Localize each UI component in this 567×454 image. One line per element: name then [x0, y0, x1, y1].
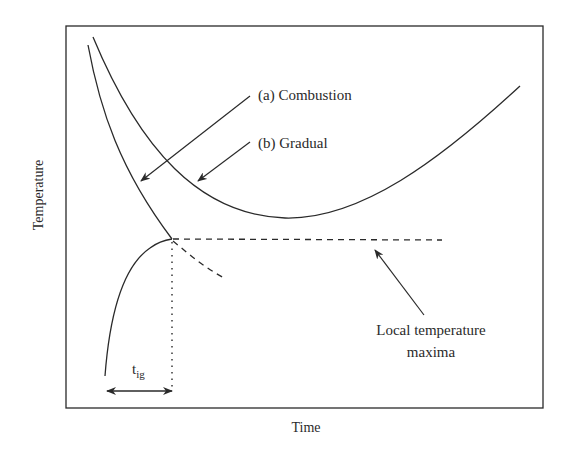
arrow-local-maxima-icon: [375, 250, 424, 315]
label-combustion: (a) Combustion: [258, 87, 352, 104]
curve-b-gradual: [93, 37, 520, 218]
curve-ignition-rise: [105, 239, 172, 376]
label-tig-sub: ig: [136, 368, 145, 380]
label-tig: tig: [132, 361, 145, 380]
y-axis-label: Temperature: [31, 160, 46, 231]
diagram-canvas: (a) Combustion (b) Gradual Local tempera…: [0, 0, 567, 454]
label-local-maxima-line1: Local temperature: [376, 322, 486, 338]
decay-dashed-branch: [173, 241, 226, 279]
local-maxima-dashed-line: [173, 239, 442, 240]
label-gradual: (b) Gradual: [258, 135, 328, 152]
x-axis-label: Time: [291, 420, 320, 435]
arrow-gradual-icon: [198, 142, 250, 181]
arrow-combustion-icon: [141, 96, 250, 181]
label-local-maxima-line2: maxima: [407, 344, 456, 360]
curve-a-combustion: [88, 45, 172, 239]
